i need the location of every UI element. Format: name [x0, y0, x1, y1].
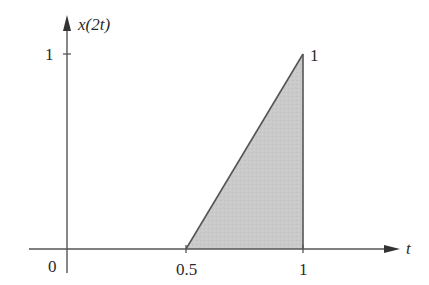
y-tick-label-1: 1	[45, 45, 54, 64]
x-axis-arrow-icon	[384, 245, 400, 253]
origin-label: 0	[48, 257, 57, 276]
y-axis-label: x(2t)	[77, 15, 110, 34]
x-tick-label-0.5: 0.5	[176, 260, 197, 279]
signal-plot: x(2t) t 1 0 0.5 1 1	[0, 0, 429, 285]
x-tick-label-1: 1	[299, 260, 308, 279]
y-axis-arrow-icon	[63, 15, 71, 31]
x-axis-label: t	[406, 239, 412, 258]
peak-label: 1	[310, 46, 319, 65]
